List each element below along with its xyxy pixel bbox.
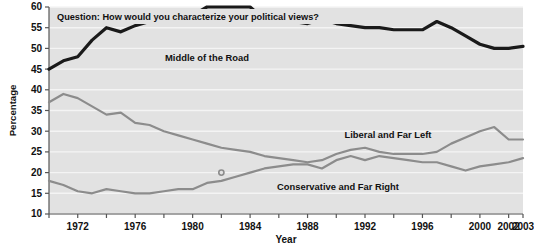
y-axis-title: Percentage (7, 85, 18, 137)
y-tick-label: 30 (31, 126, 43, 137)
political-views-line-chart: 1015202530354045505560197219761980198419… (0, 0, 534, 250)
x-tick-label: 1984 (239, 221, 262, 232)
y-tick-label: 20 (31, 167, 43, 178)
chart-figure: 1015202530354045505560197219761980198419… (0, 0, 534, 250)
crossing-point-marker (219, 170, 224, 175)
annotation-liberal-and-far-left: Liberal and Far Left (345, 129, 432, 140)
annotation-conservative-and-far-right: Conservative and Far Right (277, 181, 399, 192)
x-axis-title: Year (275, 234, 296, 245)
y-tick-label: 15 (31, 188, 43, 199)
annotation-middle-of-the-road: Middle of the Road (165, 52, 249, 63)
x-tick-label: 1992 (354, 221, 377, 232)
x-tick-label: 1988 (296, 221, 319, 232)
y-tick-label: 50 (31, 43, 43, 54)
x-tick-label: 1980 (182, 221, 205, 232)
y-tick-label: 25 (31, 146, 43, 157)
x-tick-label: 1996 (411, 221, 434, 232)
x-tick-label: 1972 (67, 221, 90, 232)
y-tick-label: 60 (31, 1, 43, 12)
question-label: Question: How would you characterize you… (57, 12, 319, 22)
y-tick-label: 35 (31, 105, 43, 116)
y-tick-label: 55 (31, 22, 43, 33)
x-tick-label: 2003 (512, 221, 534, 232)
x-tick-label: 2000 (469, 221, 492, 232)
y-tick-label: 40 (31, 84, 43, 95)
x-tick-label: 1976 (124, 221, 147, 232)
y-tick-label: 45 (31, 64, 43, 75)
y-tick-label: 10 (31, 208, 43, 219)
